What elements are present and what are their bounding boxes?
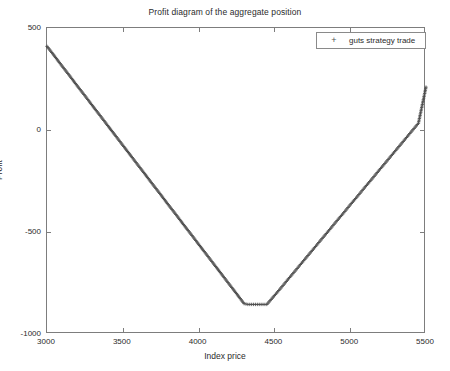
- x-tick-label: 5000: [340, 337, 358, 346]
- x-tick-label: 4000: [189, 337, 207, 346]
- y-axis-tick-right: [420, 232, 424, 233]
- plot-area: + guts strategy trade: [46, 27, 425, 333]
- y-axis-label: Profit: [0, 160, 4, 180]
- y-axis-tick: [47, 232, 51, 233]
- legend-label: guts strategy trade: [349, 36, 415, 45]
- x-axis-tick: [274, 328, 275, 332]
- y-axis-tick: [47, 130, 51, 131]
- chart-title: Profit diagram of the aggregate position: [0, 7, 450, 17]
- series-guts-strategy-trade: [45, 45, 427, 306]
- x-axis-tick: [199, 328, 200, 332]
- x-axis-tick-top: [350, 28, 351, 32]
- x-tick-label: 3000: [37, 337, 55, 346]
- plus-marker-icon: +: [323, 36, 345, 45]
- y-tick-label: 0: [0, 125, 41, 134]
- x-axis-label: Index price: [0, 351, 450, 361]
- x-axis-tick-top: [274, 28, 275, 32]
- y-tick-label: 500: [0, 23, 41, 32]
- x-axis-tick: [123, 328, 124, 332]
- x-tick-label: 3500: [113, 337, 131, 346]
- legend: + guts strategy trade: [316, 32, 426, 49]
- x-axis-tick: [350, 328, 351, 332]
- y-tick-label: -500: [0, 227, 41, 236]
- chart-screenshot: Profit diagram of the aggregate position…: [0, 0, 450, 371]
- y-axis-tick-right: [420, 130, 424, 131]
- x-axis-tick-top: [123, 28, 124, 32]
- x-tick-label: 4500: [264, 337, 282, 346]
- series-markers: [45, 45, 427, 306]
- data-series-layer: [47, 28, 426, 334]
- y-tick-label: -1000: [0, 329, 41, 338]
- x-tick-label: 5500: [416, 337, 434, 346]
- x-axis-tick-top: [199, 28, 200, 32]
